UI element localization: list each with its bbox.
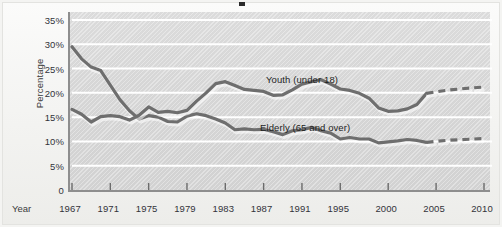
- y-axis-tick-label: 30%: [45, 39, 64, 50]
- plot-area: Youth (under 18) Elderly (65 and over): [68, 12, 490, 192]
- page-artifact-mark: [239, 2, 245, 6]
- x-axis-tick-label: 1975: [136, 203, 158, 214]
- y-axis-tick-label: 10%: [45, 136, 64, 147]
- x-axis-tick-label: 1967: [59, 203, 81, 214]
- x-axis-tick-label: 2000: [375, 203, 397, 214]
- series-label-youth: Youth (under 18): [266, 74, 338, 85]
- y-axis-tick-label: 20%: [45, 87, 64, 98]
- x-axis-tick-label: 1979: [174, 203, 196, 214]
- x-axis-tick-label: 2010: [471, 203, 493, 214]
- series-line: [72, 80, 427, 122]
- x-axis-tick-label: 1987: [251, 203, 273, 214]
- y-axis-tick-label: 0: [59, 185, 64, 196]
- series-label-elderly: Elderly (65 and over): [260, 122, 350, 133]
- y-axis-tick-label: 15%: [45, 112, 64, 123]
- chart-lines-svg: [70, 12, 492, 192]
- x-axis-tick-label: 1983: [213, 203, 235, 214]
- x-axis-tick-labels: 1967197119751979198319871991199520002005…: [68, 203, 492, 219]
- y-axis-tick-label: 35%: [45, 15, 64, 26]
- x-axis-tick-label: 1991: [289, 203, 311, 214]
- x-axis-title: Year: [12, 203, 31, 214]
- x-axis-tick-label: 1995: [327, 203, 349, 214]
- poverty-rate-line-chart-figure: Percentage 05%10%15%20%25%30%35% Year 19…: [0, 0, 502, 227]
- x-axis-tick-label: 2005: [423, 203, 445, 214]
- y-axis-tick-labels: 05%10%15%20%25%30%35%: [22, 12, 64, 192]
- y-axis-tick-label: 25%: [45, 63, 64, 74]
- x-axis-tick-label: 1971: [98, 203, 120, 214]
- y-axis-tick-label: 5%: [50, 160, 64, 171]
- series-line: [72, 47, 427, 143]
